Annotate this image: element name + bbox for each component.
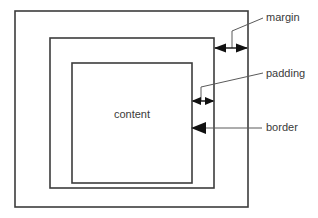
content-box xyxy=(72,63,192,183)
content-label: content xyxy=(114,108,150,120)
border-label: border xyxy=(266,121,298,133)
padding-leader-line xyxy=(201,73,263,101)
box-model-diagram: content margin padding border xyxy=(0,0,318,218)
border-callout: border xyxy=(191,121,298,134)
padding-arrow-right-icon xyxy=(205,97,215,105)
padding-label: padding xyxy=(266,67,305,79)
diagram-canvas: content margin padding border xyxy=(0,0,318,218)
margin-arrow-right-icon xyxy=(236,44,248,53)
border-arrow-left-icon xyxy=(191,122,206,134)
margin-label: margin xyxy=(266,11,300,23)
margin-arrow-left-icon xyxy=(214,44,226,53)
margin-callout: margin xyxy=(214,11,300,53)
padding-arrow-left-icon xyxy=(192,97,202,105)
